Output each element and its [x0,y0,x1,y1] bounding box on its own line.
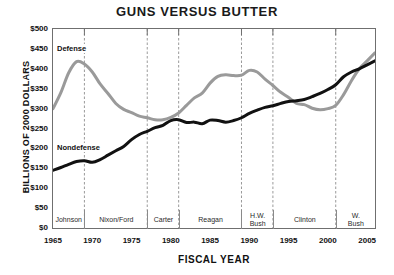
president-label: Carter [154,216,173,224]
x-tick-label: 2000 [308,236,348,245]
president-term-cell: Nixon/Ford [84,210,147,229]
president-label: Nixon/Ford [99,216,133,224]
y-tick-label: $50 [2,204,48,212]
x-tick-label: 1980 [151,236,191,245]
y-tick-label: $200 [2,144,48,152]
president-term-cell: Reagan [179,210,242,229]
y-tick-label: $100 [2,184,48,192]
y-tick-label: $250 [2,125,48,133]
president-label: Clinton [294,216,316,224]
chart-container: GUNS VERSUS BUTTER BILLIONS OF 2000 DOLL… [0,0,394,275]
y-tick-label: $300 [2,105,48,113]
y-tick-label: $0 [2,224,48,232]
y-tick-label: $150 [2,164,48,172]
president-term-cell: Carter [147,210,178,229]
x-tick-label: 1975 [112,236,152,245]
president-label: H.W.Bush [250,212,266,227]
series-plot [53,29,375,228]
x-tick-label: 1965 [33,236,73,245]
y-axis-tick-labels: $0$50$100$150$200$250$300$350$400$450$50… [0,0,48,275]
series-line-nondefense [53,61,375,170]
president-term-cell: W.Bush [336,210,375,229]
president-term-cell: Clinton [273,210,336,229]
series-line-defense [53,53,375,120]
x-tick-label: 2005 [347,236,387,245]
x-tick-label: 1995 [269,236,309,245]
president-term-cell: Johnson [53,210,84,229]
president-term-cell: H.W.Bush [241,210,272,229]
series-label-defense: Defense [56,44,87,53]
x-tick-label: 1985 [190,236,230,245]
president-label: W.Bush [348,212,364,227]
y-tick-label: $350 [2,85,48,93]
y-tick-label: $450 [2,45,48,53]
x-tick-label: 1970 [72,236,112,245]
y-tick-label: $400 [2,65,48,73]
chart-title: GUNS VERSUS BUTTER [0,4,394,19]
y-tick-label: $500 [2,25,48,33]
president-label: Johnson [55,216,81,224]
x-tick-label: 1990 [229,236,269,245]
series-label-nondefense: Nondefense [56,143,101,152]
president-term-band: JohnsonNixon/FordCarterReaganH.W.BushCli… [52,210,376,229]
x-axis-title: FISCAL YEAR [52,254,376,265]
president-label: Reagan [198,216,223,224]
x-axis-tick-labels: 196519701975198019851990199520002005 [0,236,394,248]
plot-area [52,28,376,229]
